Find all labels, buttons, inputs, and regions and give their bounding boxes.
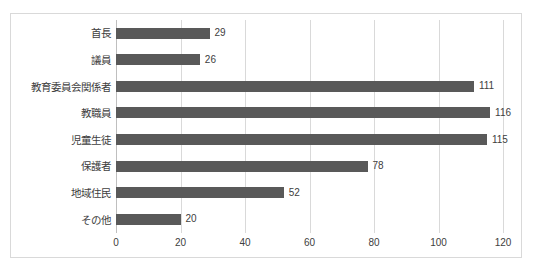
x-tick-label: 80 xyxy=(368,236,379,250)
bar[interactable] xyxy=(116,187,284,198)
bar[interactable] xyxy=(116,214,181,225)
bar-value-label: 26 xyxy=(205,50,216,70)
category-label: 保護者 xyxy=(11,159,111,173)
bar-row: 52 xyxy=(116,180,503,207)
bar[interactable] xyxy=(116,107,490,118)
bar-value-label: 29 xyxy=(215,23,226,43)
x-tick-label: 100 xyxy=(430,236,447,250)
bar-value-label: 115 xyxy=(492,130,508,150)
category-label: その他 xyxy=(11,213,111,227)
bar[interactable] xyxy=(116,28,210,39)
bar[interactable] xyxy=(116,134,487,145)
x-tick-label: 20 xyxy=(175,236,186,250)
bar-row: 20 xyxy=(116,206,503,233)
bar-value-label: 20 xyxy=(186,209,197,229)
category-label: 議員 xyxy=(11,53,111,67)
bar-value-label: 116 xyxy=(495,103,511,123)
x-tick-label: 60 xyxy=(304,236,315,250)
category-label: 教職員 xyxy=(11,106,111,120)
bar-row: 29 xyxy=(116,20,503,47)
plot-area: 2926111116115785220 xyxy=(116,20,503,233)
x-axis: 020406080100120 xyxy=(116,236,503,254)
gridline-120 xyxy=(503,20,504,233)
chart-frame: 首長議員教育委員会関係者教職員児童生徒保護者地域住民その他 2926111116… xyxy=(10,13,522,258)
category-label: 首長 xyxy=(11,26,111,40)
bar[interactable] xyxy=(116,81,474,92)
bar-row: 26 xyxy=(116,47,503,74)
x-tick-label: 40 xyxy=(239,236,250,250)
bar-row: 116 xyxy=(116,100,503,127)
category-axis: 首長議員教育委員会関係者教職員児童生徒保護者地域住民その他 xyxy=(11,20,111,233)
bar[interactable] xyxy=(116,161,368,172)
bar-row: 78 xyxy=(116,153,503,180)
bar-value-label: 78 xyxy=(373,156,384,176)
category-label: 教育委員会関係者 xyxy=(11,80,111,94)
bar[interactable] xyxy=(116,54,200,65)
bar-value-label: 111 xyxy=(479,76,494,96)
bar-row: 115 xyxy=(116,127,503,154)
category-label: 児童生徒 xyxy=(11,133,111,147)
x-tick-label: 0 xyxy=(113,236,119,250)
bar-value-label: 52 xyxy=(289,183,300,203)
bar-row: 111 xyxy=(116,73,503,100)
category-label: 地域住民 xyxy=(11,186,111,200)
x-tick-label: 120 xyxy=(495,236,512,250)
